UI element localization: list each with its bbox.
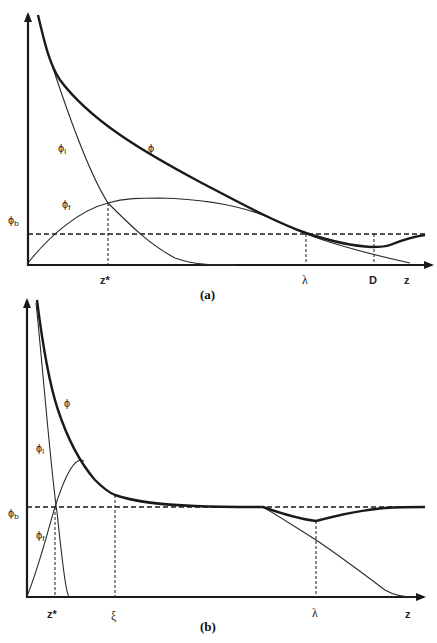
- panel-label-a: (a): [200, 287, 215, 302]
- figure-canvas: ϕl ϕ ϕf ϕb z* λ D z (a) ϕ ϕl ϕb ϕf z*: [0, 0, 437, 643]
- phi-curve-a: [38, 15, 425, 247]
- phi-f-tail-b: [263, 507, 415, 597]
- d-label-a: D: [369, 274, 377, 286]
- xi-label-b: ξ: [111, 609, 117, 623]
- phi-b-label-a: ϕb: [8, 214, 19, 228]
- phi-f-curve-a: [28, 198, 410, 263]
- phi-l-curve-a: [52, 65, 235, 265]
- phi-f-label-a: ϕf: [62, 198, 71, 212]
- lambda-label-a: λ: [302, 273, 308, 287]
- z-axis-label-a: z: [404, 274, 410, 286]
- phi-f-label-b: ϕf: [36, 529, 45, 543]
- panel-b: ϕ ϕl ϕb ϕf z* ξ λ z (b): [8, 300, 425, 634]
- phi-l-label-a: ϕl: [58, 142, 66, 156]
- phi-label-a: ϕ: [148, 142, 154, 154]
- phi-label-b: ϕ: [64, 397, 70, 409]
- lambda-label-b: λ: [312, 606, 318, 620]
- panel-a: ϕl ϕ ϕf ϕb z* λ D z (a): [8, 14, 432, 302]
- z-star-label-b: z*: [47, 608, 58, 620]
- phi-l-label-b: ϕl: [36, 442, 44, 456]
- z-star-label-a: z*: [100, 274, 111, 286]
- panel-label-b: (b): [200, 619, 216, 634]
- z-axis-label-b: z: [405, 608, 411, 620]
- phi-b-label-b: ϕb: [8, 507, 19, 521]
- phi-curve-b: [37, 300, 425, 521]
